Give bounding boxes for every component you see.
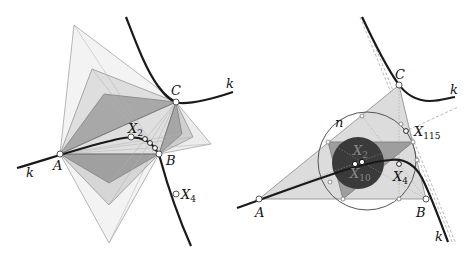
- label-curve-k: k: [226, 76, 234, 91]
- point-b: [156, 151, 162, 157]
- label-x115: X115: [413, 124, 441, 141]
- point-x10: [359, 159, 364, 164]
- label-curve-k: k: [26, 165, 34, 180]
- label-b: B: [415, 205, 426, 220]
- label-b: B: [165, 153, 176, 168]
- point-a: [57, 151, 63, 157]
- label-c: C: [395, 67, 405, 82]
- point-marker: [148, 141, 153, 146]
- label-curve-k: k: [435, 229, 443, 244]
- point-x4: [397, 162, 402, 167]
- point-marker: [143, 137, 148, 142]
- point-x4: [173, 191, 179, 197]
- diagram-canvas: k k A B C X2 X4: [0, 0, 471, 259]
- label-a: A: [52, 158, 62, 173]
- point-a: [256, 196, 262, 202]
- point-c: [173, 99, 179, 105]
- point-b: [423, 196, 429, 202]
- left-figure: k k A B C X2 X4: [17, 17, 234, 246]
- label-curve-k: k: [450, 82, 458, 97]
- point-c: [396, 82, 402, 88]
- label-x4: X4: [180, 187, 196, 204]
- label-a: A: [254, 205, 264, 220]
- curve-k-upper-branch: [362, 17, 455, 101]
- point-x115: [404, 129, 409, 134]
- point-marker: [153, 146, 158, 151]
- label-c: C: [171, 83, 181, 98]
- right-figure: k k n A B C X115 X4 X2 X10: [237, 17, 458, 244]
- label-n: n: [335, 115, 343, 130]
